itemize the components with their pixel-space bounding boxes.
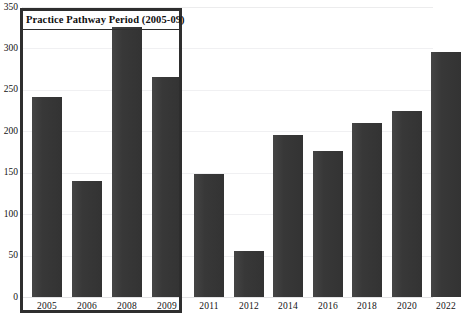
x-axis-label-2005: 2005 — [27, 299, 67, 313]
bar-2009 — [152, 77, 182, 297]
practice-pathway-period-rule — [23, 29, 179, 30]
bar-2014 — [273, 135, 303, 297]
bar-2012 — [234, 251, 264, 297]
y-axis-tick-0: 0 — [0, 292, 18, 302]
bar-2011 — [194, 174, 224, 297]
bar-2008 — [112, 27, 142, 297]
x-axis: 2005 2006 2008 2009 2011 2012 2014 2016 … — [22, 299, 433, 317]
x-axis-label-2008: 2008 — [107, 299, 147, 313]
x-axis-label-2018: 2018 — [347, 299, 387, 313]
x-axis-label-2006: 2006 — [67, 299, 107, 313]
y-axis-tick-100: 100 — [0, 209, 18, 219]
y-axis-tick-250: 250 — [0, 84, 18, 94]
bar-2022 — [431, 52, 461, 297]
gridline-0 — [22, 297, 433, 298]
y-axis-tick-350: 350 — [0, 2, 18, 12]
bar-2005 — [32, 97, 62, 297]
y-axis-tick-200: 200 — [0, 126, 18, 136]
plot-area — [22, 7, 433, 297]
y-axis-line — [22, 7, 23, 298]
y-axis-tick-150: 150 — [0, 167, 18, 177]
x-axis-label-2022: 2022 — [426, 299, 465, 313]
x-axis-label-2014: 2014 — [268, 299, 308, 313]
x-axis-label-2012: 2012 — [229, 299, 269, 313]
y-axis-tick-300: 300 — [0, 43, 18, 53]
bar-2006 — [72, 181, 102, 297]
bars-layer — [22, 7, 433, 297]
x-axis-label-2020: 2020 — [387, 299, 427, 313]
x-axis-label-2016: 2016 — [308, 299, 348, 313]
practice-pathway-period-label: Practice Pathway Period (2005-09) — [26, 11, 178, 28]
y-axis-tick-50: 50 — [0, 250, 18, 260]
bar-2018 — [352, 123, 382, 297]
bar-2016 — [313, 151, 343, 297]
x-axis-label-2011: 2011 — [189, 299, 229, 313]
bar-2020 — [392, 111, 422, 297]
x-axis-label-2009: 2009 — [147, 299, 187, 313]
